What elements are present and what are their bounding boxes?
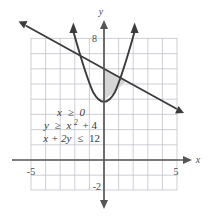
- inequality-annotations: x ≥ 0 y ≥ x 2 + 4 x + 2y ≤ 12: [42, 106, 100, 144]
- y-axis-arrow-up: [100, 20, 108, 29]
- ineq1-op: ≥: [68, 106, 74, 118]
- x-tick-label-neg5: -5: [27, 166, 35, 177]
- x-tick-label-pos5: 5: [174, 166, 179, 177]
- graph-figure: y x 8 -2 -5 5 x ≥ 0 y ≥ x 2 + 4 x + 2y ≤: [0, 0, 211, 218]
- ineq3-op: ≤: [77, 132, 83, 144]
- ineq2-exponent: 2: [74, 118, 78, 127]
- ineq2-tail: + 4: [83, 119, 98, 131]
- ineq2-op: ≥: [55, 119, 61, 131]
- inequality-line-1: x ≥ 0: [56, 106, 85, 118]
- coordinate-plane-svg: y x 8 -2 -5 5 x ≥ 0 y ≥ x 2 + 4 x + 2y ≤: [0, 0, 211, 218]
- ineq2-base: x: [65, 119, 71, 131]
- y-tick-label-8: 8: [92, 33, 97, 44]
- y-axis-arrow-down: [100, 200, 108, 209]
- x-axis-label: x: [195, 154, 201, 165]
- y-axis-label: y: [98, 6, 104, 17]
- y-tick-label-neg2: -2: [93, 181, 101, 192]
- ineq3-lhs: x + 2y: [42, 132, 71, 144]
- ineq3-rhs: 12: [89, 132, 100, 144]
- x-axis-arrow: [183, 156, 192, 164]
- boundary-line: [19, 21, 185, 114]
- inequality-line-3: x + 2y ≤ 12: [42, 132, 100, 144]
- ineq2-lhs: y: [43, 119, 49, 131]
- ineq1-lhs: x: [56, 106, 62, 118]
